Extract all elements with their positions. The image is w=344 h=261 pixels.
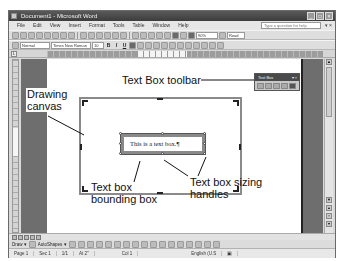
style-select[interactable]: Normal — [20, 42, 50, 49]
scroll-thumb[interactable] — [326, 67, 332, 117]
menu-file[interactable]: File — [13, 21, 29, 30]
close-document-icon[interactable]: ▾ × — [325, 22, 332, 28]
print-icon[interactable] — [44, 32, 51, 39]
autoshapes-menu-button[interactable]: AutoShapes ▾ — [38, 242, 67, 247]
draw-menu-button[interactable]: Draw ▾ — [12, 242, 27, 247]
previous-page-icon[interactable]: ▴ — [326, 205, 332, 211]
next-page-icon[interactable]: ▾ — [326, 221, 332, 227]
align-right-icon[interactable] — [145, 42, 152, 49]
new-icon[interactable] — [12, 32, 19, 39]
line-style-icon[interactable] — [177, 241, 184, 248]
previous-text-box-icon[interactable] — [273, 83, 280, 89]
vertical-scrollbar[interactable]: ▲ ▼ ▴ ○ ▾ — [324, 59, 333, 233]
align-center-icon[interactable] — [137, 42, 144, 49]
align-left-icon[interactable] — [129, 42, 136, 49]
format-painter-icon[interactable] — [104, 32, 111, 39]
numbering-icon[interactable] — [169, 42, 176, 49]
bullets-icon[interactable] — [177, 42, 184, 49]
menu-insert[interactable]: Insert — [64, 21, 85, 30]
sizing-handle-bottom-right[interactable] — [203, 152, 206, 155]
increase-indent-icon[interactable] — [193, 42, 200, 49]
menu-window[interactable]: Window — [148, 21, 174, 30]
redo-icon[interactable] — [120, 32, 127, 39]
permission-icon[interactable] — [36, 32, 43, 39]
floating-toolbar-title-bar[interactable]: Text Box ▾ × — [255, 74, 299, 81]
rectangle-icon[interactable] — [87, 241, 94, 248]
sizing-handle-top-right[interactable] — [203, 132, 206, 135]
maximize-button[interactable]: □ — [316, 12, 324, 20]
cut-icon[interactable] — [80, 32, 87, 39]
fill-color-icon[interactable] — [150, 241, 157, 248]
columns-icon[interactable] — [164, 32, 171, 39]
vertical-ruler[interactable] — [12, 59, 19, 233]
horizontal-ruler[interactable] — [47, 51, 323, 57]
sizing-handle-right[interactable] — [203, 142, 206, 145]
text-box-floating-toolbar[interactable]: Text Box ▾ × — [254, 73, 300, 91]
copy-icon[interactable] — [88, 32, 95, 39]
help-search-input[interactable]: Type a question for help — [261, 22, 321, 29]
minimize-button[interactable]: _ — [307, 12, 315, 20]
drawing-icon[interactable] — [172, 32, 179, 39]
document-map-icon[interactable] — [180, 32, 187, 39]
undo-icon[interactable] — [112, 32, 119, 39]
line-spacing-icon[interactable] — [161, 42, 168, 49]
menu-tools[interactable]: Tools — [109, 21, 129, 30]
next-text-box-icon[interactable] — [281, 83, 288, 89]
line-icon[interactable] — [69, 241, 76, 248]
clip-art-icon[interactable] — [132, 241, 139, 248]
read-button[interactable]: Read — [227, 32, 245, 39]
sizing-handle-bottom[interactable] — [161, 152, 164, 155]
spelling-icon[interactable] — [60, 32, 67, 39]
font-size-select[interactable]: 10 — [92, 42, 104, 49]
save-icon[interactable] — [28, 32, 35, 39]
change-text-direction-icon[interactable] — [289, 83, 296, 89]
hyperlink-icon[interactable] — [132, 32, 139, 39]
sizing-handle-bottom-left[interactable] — [119, 152, 122, 155]
horizontal-scrollbar[interactable] — [9, 233, 335, 240]
help-icon[interactable] — [219, 32, 226, 39]
insert-table-icon[interactable] — [148, 32, 155, 39]
font-color-icon[interactable] — [217, 42, 224, 49]
canvas-handle-right[interactable] — [239, 144, 241, 150]
sizing-handle-top[interactable] — [161, 132, 164, 135]
tab-selector-icon[interactable]: L — [11, 51, 17, 57]
highlight-icon[interactable] — [209, 42, 216, 49]
create-text-box-link-icon[interactable] — [257, 83, 264, 89]
shadow-style-icon[interactable] — [204, 241, 211, 248]
insert-excel-icon[interactable] — [156, 32, 163, 39]
bold-button[interactable]: B — [105, 42, 112, 48]
diagram-icon[interactable] — [123, 241, 130, 248]
font-select[interactable]: Times New Roman — [51, 42, 91, 49]
tables-borders-icon[interactable] — [140, 32, 147, 39]
arrow-style-icon[interactable] — [195, 241, 202, 248]
floating-toolbar-close-icon[interactable]: ▾ × — [292, 74, 297, 81]
sizing-handle-top-left[interactable] — [119, 132, 122, 135]
scroll-down-icon[interactable]: ▼ — [326, 197, 332, 203]
picture-icon[interactable] — [141, 241, 148, 248]
canvas-handle-top[interactable] — [157, 98, 163, 100]
3d-style-icon[interactable] — [213, 241, 220, 248]
scroll-up-icon[interactable]: ▲ — [326, 59, 332, 65]
arrow-icon[interactable] — [78, 241, 85, 248]
styles-icon[interactable] — [12, 42, 19, 49]
research-icon[interactable] — [68, 32, 75, 39]
font-color-icon[interactable] — [168, 241, 175, 248]
menu-format[interactable]: Format — [85, 21, 109, 30]
canvas-handle-left[interactable] — [80, 144, 82, 150]
justify-icon[interactable] — [153, 42, 160, 49]
wordart-icon[interactable] — [114, 241, 121, 248]
text-box-content[interactable]: This is a text box.¶ — [130, 140, 179, 147]
menu-view[interactable]: View — [46, 21, 65, 30]
zoom-select[interactable]: 90% — [196, 32, 218, 39]
show-hide-icon[interactable] — [188, 32, 195, 39]
italic-button[interactable]: I — [113, 42, 120, 48]
close-button[interactable]: × — [325, 12, 333, 20]
select-objects-icon[interactable] — [29, 241, 36, 248]
underline-button[interactable]: U — [121, 42, 128, 48]
dash-style-icon[interactable] — [186, 241, 193, 248]
open-icon[interactable] — [20, 32, 27, 39]
sizing-handle-left[interactable] — [119, 142, 122, 145]
break-forward-link-icon[interactable] — [265, 83, 272, 89]
decrease-indent-icon[interactable] — [185, 42, 192, 49]
menu-edit[interactable]: Edit — [29, 21, 46, 30]
